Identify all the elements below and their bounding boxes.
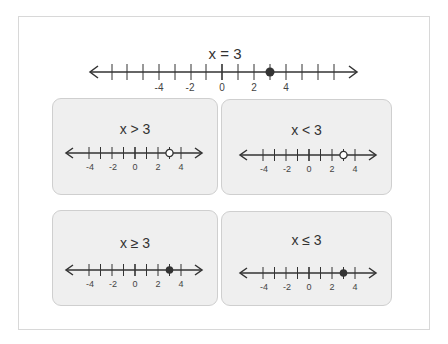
card-label: x ≥ 3 (53, 235, 217, 251)
svg-text:4: 4 (283, 82, 289, 93)
card-label: x < 3 (222, 122, 391, 138)
svg-text:0: 0 (219, 82, 225, 93)
svg-text:2: 2 (251, 82, 257, 93)
card-x-less-than-3[interactable]: x < 3 (221, 99, 392, 195)
card-label: x > 3 (53, 121, 217, 137)
card-label: x ≤ 3 (222, 232, 391, 248)
card-x-greater-than-3[interactable]: x > 3 (52, 98, 218, 195)
card-x-greater-equal-3[interactable]: x ≥ 3 (52, 210, 218, 306)
card-x-less-equal-3[interactable]: x ≤ 3 (221, 211, 392, 306)
svg-text:-2: -2 (186, 82, 195, 93)
svg-text:-4: -4 (155, 82, 164, 93)
closed-point-marker (266, 68, 275, 77)
